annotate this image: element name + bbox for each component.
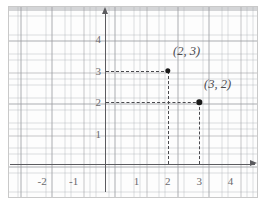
x-tick-label-3: 3 (196, 176, 202, 187)
guide-line-vertical-point-2 (199, 102, 200, 164)
x-axis-arrow-icon (250, 160, 257, 166)
x-tick-label--2: -2 (38, 176, 47, 187)
point-label-2-3: (2, 3) (173, 45, 200, 58)
guide-line-horizontal-point-2 (106, 102, 201, 103)
y-axis-arrow-icon (102, 7, 108, 14)
guide-line-vertical-point-1 (168, 71, 169, 164)
x-tick-label--1: -1 (69, 176, 78, 187)
x-axis-line (10, 164, 255, 165)
y-tick-label-3: 3 (90, 65, 101, 76)
point-label-3-2: (3, 2) (204, 78, 231, 91)
guide-line-horizontal-point-1 (106, 71, 169, 72)
y-tick-label-2: 2 (90, 97, 101, 108)
coordinate-plane-figure: -2 -1 1 2 3 4 1 2 3 4 (2, 3) (3, 2) (0, 0, 266, 204)
x-tick-label-4: 4 (228, 176, 234, 187)
y-tick-label-1: 1 (90, 128, 101, 139)
y-tick-label-4: 4 (90, 34, 101, 45)
x-tick-label-2: 2 (165, 176, 171, 187)
x-tick-label-1: 1 (134, 176, 140, 187)
